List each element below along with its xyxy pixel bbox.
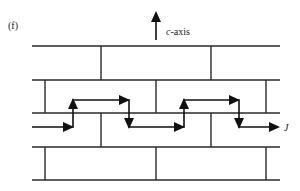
panel-label: (f) xyxy=(8,20,18,32)
axis-suffix: -axis xyxy=(170,26,190,37)
c-axis-label: c-axis xyxy=(166,26,190,37)
current-label: J xyxy=(284,122,289,133)
layered-structure-diagram: (f) c-axis xyxy=(0,0,300,191)
c-axis-arrow-icon xyxy=(151,11,161,40)
arrow-right-icon xyxy=(269,122,280,132)
